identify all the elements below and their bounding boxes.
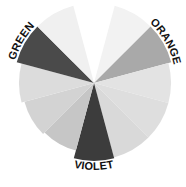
polar-area-chart: ORANGEVIOLETGREEN xyxy=(0,0,186,187)
chart-sectors xyxy=(17,6,172,161)
